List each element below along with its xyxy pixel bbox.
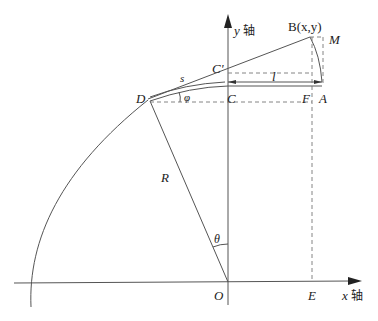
x-axis <box>14 281 352 283</box>
label-s: s <box>180 73 184 84</box>
label-E: E <box>308 289 316 302</box>
label-F: F <box>302 92 310 105</box>
y-axis-label: y 轴 <box>234 24 255 37</box>
dimension-arrow-left-icon <box>228 80 236 84</box>
label-C: C <box>227 92 236 105</box>
label-theta: θ <box>214 233 220 245</box>
x-axis-arrow-icon <box>348 277 362 285</box>
x-axis-var: x <box>342 288 348 303</box>
label-C-prime: C' <box>212 62 223 75</box>
phi-arc <box>179 92 180 102</box>
label-M: M <box>329 33 340 46</box>
geometry-diagram <box>0 0 378 321</box>
x-axis-label: x 轴 <box>342 289 363 302</box>
label-phi: φ <box>184 92 190 103</box>
label-D: D <box>136 92 145 105</box>
y-axis-var: y <box>234 23 240 38</box>
circle-arc <box>31 100 148 307</box>
y-axis-text: 轴 <box>243 24 255 38</box>
label-R: R <box>161 171 169 184</box>
dimension-arrow-right-icon <box>314 80 322 84</box>
label-l: l <box>272 70 276 83</box>
x-axis-text: 轴 <box>351 289 363 303</box>
label-O: O <box>214 289 223 302</box>
label-B: B(x,y) <box>288 20 322 33</box>
radius-line <box>150 101 228 282</box>
label-A: A <box>319 92 327 105</box>
y-axis-arrow-icon <box>224 14 232 28</box>
